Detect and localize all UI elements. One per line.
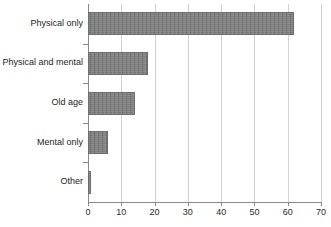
x-tick-10 <box>121 202 122 206</box>
bar <box>88 131 108 154</box>
x-tick-label: 60 <box>273 207 303 218</box>
x-tick-40 <box>221 202 222 206</box>
x-tick-20 <box>155 202 156 206</box>
x-tick-label: 0 <box>73 207 103 218</box>
y-axis-tick <box>83 44 88 45</box>
x-tick-label: 40 <box>206 207 236 218</box>
x-tick-30 <box>188 202 189 206</box>
x-tick-50 <box>254 202 255 206</box>
x-tick-0 <box>88 202 89 206</box>
x-tick-label: 50 <box>239 207 269 218</box>
x-tick-label: 70 <box>306 207 331 218</box>
bar <box>88 92 135 115</box>
x-tick-60 <box>288 202 289 206</box>
y-axis-tick <box>83 123 88 124</box>
x-tick-70 <box>321 202 322 206</box>
category-label: Physical only <box>0 18 83 29</box>
bar <box>88 171 91 194</box>
bar <box>88 52 148 75</box>
x-tick-label: 30 <box>173 207 203 218</box>
category-label: Mental only <box>0 137 83 148</box>
gridline-70 <box>321 4 322 202</box>
category-label: Other <box>0 176 83 187</box>
x-tick-label: 20 <box>140 207 170 218</box>
y-axis-tick <box>83 162 88 163</box>
x-tick-label: 10 <box>106 207 136 218</box>
bar <box>88 12 294 35</box>
category-label: Old age <box>0 97 83 108</box>
y-axis-tick <box>83 83 88 84</box>
category-label: Physical and mental <box>0 57 83 68</box>
